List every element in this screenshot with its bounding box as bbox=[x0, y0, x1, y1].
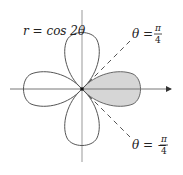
lower-ray-label-den: 4 bbox=[161, 146, 167, 156]
polar-rose-diagram: r = cos 2θ θ = π 4 θ = − π 4 bbox=[0, 0, 183, 175]
upper-ray-label-lhs: θ = bbox=[132, 27, 153, 41]
upper-ray-label-den: 4 bbox=[155, 35, 161, 45]
curve-label: r = cos 2θ bbox=[23, 24, 86, 38]
origin-point bbox=[80, 87, 84, 91]
lower-ray-label-num: π bbox=[160, 134, 168, 144]
upper-ray-label-num: π bbox=[154, 23, 162, 33]
